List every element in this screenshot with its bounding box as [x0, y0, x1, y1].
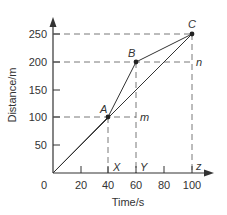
point-label-c: C — [188, 18, 196, 30]
annotation-z: z — [195, 160, 202, 172]
point-label-a: A — [99, 103, 107, 115]
data-lines — [53, 34, 192, 173]
y-tick-label-250: 250 — [29, 28, 47, 40]
x-tick-label-100: 100 — [183, 179, 201, 191]
y-tick-label-150: 150 — [29, 84, 47, 96]
annotation-x: X — [112, 161, 121, 173]
x-axis-arrow-icon — [204, 170, 214, 177]
annotation-n: n — [196, 56, 202, 68]
y-tick-label-100: 100 — [29, 111, 47, 123]
annotation-m: m — [140, 111, 149, 123]
x-tick-label-40: 40 — [102, 179, 114, 191]
point-label-b: B — [128, 47, 135, 59]
origin-label: 0 — [41, 179, 47, 191]
y-tick-label-200: 200 — [29, 56, 47, 68]
y-axis-arrow-icon — [50, 17, 57, 27]
x-ticks — [81, 166, 192, 173]
point-c — [190, 32, 195, 37]
y-tick-label-50: 50 — [35, 139, 47, 151]
x-tick-label-80: 80 — [158, 179, 170, 191]
y-axis-title: Distance/m — [6, 67, 18, 122]
distance-time-chart: 250 200 150 100 50 0 20 40 60 80 100 Tim… — [0, 0, 227, 215]
x-tick-label-60: 60 — [130, 179, 142, 191]
annotation-y: Y — [140, 161, 148, 173]
x-axis-title: Time/s — [112, 196, 145, 208]
point-a — [106, 115, 111, 120]
x-tick-label-20: 20 — [75, 179, 87, 191]
point-b — [134, 60, 139, 65]
y-ticks — [53, 34, 60, 145]
